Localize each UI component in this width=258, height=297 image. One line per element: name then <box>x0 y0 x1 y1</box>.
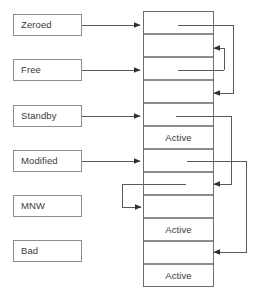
state-box-zeroed[interactable]: Zeroed <box>13 14 82 36</box>
page-frame-row[interactable] <box>143 11 214 34</box>
state-label-zeroed: Zeroed <box>21 20 52 30</box>
state-box-bad[interactable]: Bad <box>13 240 82 262</box>
page-frame-row[interactable] <box>143 57 214 80</box>
page-frame-row[interactable] <box>143 195 214 218</box>
page-frame-row[interactable]: Active <box>143 218 214 241</box>
state-box-modified[interactable]: Modified <box>13 150 82 172</box>
page-frame-row[interactable]: Active <box>143 264 214 287</box>
state-label-modified: Modified <box>21 156 58 166</box>
page-frame-row[interactable] <box>143 34 214 57</box>
page-frame-label: Active <box>165 225 191 235</box>
state-label-mnw: MNW <box>21 201 45 211</box>
page-frame-row[interactable] <box>143 149 214 172</box>
state-label-standby: Standby <box>21 111 57 121</box>
state-box-free[interactable]: Free <box>13 59 82 81</box>
state-label-free: Free <box>21 65 41 75</box>
page-frame-row[interactable] <box>143 80 214 103</box>
connector-loopback-frame7-to-frame11 <box>214 161 246 252</box>
connector-loopback-frame3-to-frame2 <box>214 48 224 70</box>
state-box-standby[interactable]: Standby <box>13 105 82 127</box>
page-frame-state-diagram: Zeroed Free Standby Modified MNW Bad Act… <box>0 0 258 297</box>
page-frame-row[interactable] <box>143 103 214 126</box>
connector-loopback-frame1-to-frame4 <box>212 25 233 93</box>
page-frame-label: Active <box>165 271 191 281</box>
state-box-mnw[interactable]: MNW <box>13 195 82 217</box>
page-frame-row[interactable]: Active <box>143 126 214 149</box>
state-label-bad: Bad <box>21 246 38 256</box>
page-frame-row[interactable] <box>143 172 214 195</box>
page-frame-row[interactable] <box>143 241 214 264</box>
connector-loopback-frame5-to-frame8 <box>212 116 231 184</box>
page-frame-label: Active <box>165 133 191 143</box>
